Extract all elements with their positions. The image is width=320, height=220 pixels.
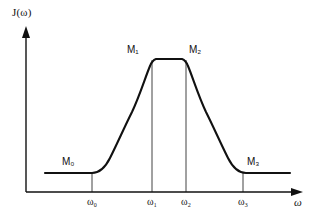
van-hove-singularity-figure: J(ω) ω M₀ M₁ M₂ M₃ ω₀ ω₁ ω₂ ω₃ — [0, 0, 320, 220]
critical-point-label-m2: M₂ — [189, 44, 201, 55]
x-tick-label-omega2: ω₂ — [181, 196, 191, 207]
critical-point-label-m0: M₀ — [62, 156, 74, 167]
x-tick-label-omega3: ω₃ — [238, 196, 248, 207]
critical-point-label-m1: M₁ — [127, 44, 139, 55]
tick-guide-lines — [92, 60, 243, 192]
y-axis-label: J(ω) — [12, 6, 32, 18]
critical-point-label-m3: M₃ — [247, 156, 259, 167]
x-tick-label-omega1: ω₁ — [147, 196, 157, 207]
x-axis-label: ω — [294, 196, 302, 208]
x-tick-label-omega0: ω₀ — [87, 196, 97, 207]
y-axis — [22, 26, 30, 192]
plot-canvas — [0, 0, 320, 220]
x-axis — [26, 188, 303, 196]
